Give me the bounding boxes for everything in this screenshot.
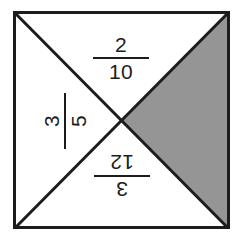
square-diagram-svg bbox=[0, 0, 243, 243]
fraction-square-figure: 2 10 3 5 3 12 bbox=[0, 0, 243, 243]
